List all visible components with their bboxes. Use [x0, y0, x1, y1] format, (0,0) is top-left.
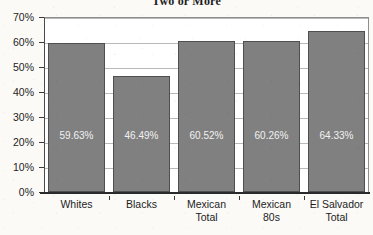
x-axis-baseline [40, 192, 370, 194]
bar-slot: 64.33% [304, 17, 369, 192]
x-tick-label-line: Total [304, 211, 369, 224]
y-tick-label: 70% [13, 11, 34, 23]
bar-value-label: 46.49% [114, 130, 169, 141]
x-tick-label: Blacks [109, 198, 174, 211]
bars-layer: 59.63%46.49%60.52%60.26%64.33% [44, 17, 369, 192]
x-tick-label-line: Total [174, 211, 239, 224]
bar-value-label: 60.52% [179, 130, 234, 141]
y-tick-label: 0% [19, 186, 34, 198]
x-tick-mark [239, 196, 240, 200]
y-tick-label: 20% [13, 136, 34, 148]
bar-slot: 60.52% [174, 17, 239, 192]
bar[interactable]: 46.49% [113, 76, 170, 192]
bar[interactable]: 59.63% [48, 43, 105, 192]
x-tick-label: Whites [44, 198, 109, 211]
x-tick-label: El SalvadorTotal [304, 198, 369, 223]
x-tick-mark [109, 196, 110, 200]
x-tick-mark [304, 196, 305, 200]
x-tick-label: MexicanTotal [174, 198, 239, 223]
x-tick-mark [174, 196, 175, 200]
bar-value-label: 59.63% [49, 130, 104, 141]
bar[interactable]: 60.26% [243, 41, 300, 192]
y-tick-label: 60% [13, 36, 34, 48]
bar-slot: 46.49% [109, 17, 174, 192]
y-tick-label: 30% [13, 111, 34, 123]
x-tick-label-line: Whites [44, 198, 109, 211]
bar-slot: 60.26% [239, 17, 304, 192]
bar-value-label: 64.33% [309, 130, 364, 141]
y-tick-label: 10% [13, 161, 34, 173]
x-tick-label-line: Mexican [174, 198, 239, 211]
chart-title: Two or More [0, 0, 373, 8]
y-tick-label: 50% [13, 61, 34, 73]
bar[interactable]: 60.52% [178, 41, 235, 192]
x-tick-label-line: Mexican [239, 198, 304, 211]
y-axis: 0%10%20%30%40%50%60%70% [0, 0, 41, 235]
x-tick-label: Mexican80s [239, 198, 304, 223]
y-tick-label: 40% [13, 86, 34, 98]
x-tick-label-line: Blacks [109, 198, 174, 211]
x-tick-label-line: 80s [239, 211, 304, 224]
bar[interactable]: 64.33% [308, 31, 365, 192]
x-tick-label-line: El Salvador [304, 198, 369, 211]
bar-value-label: 60.26% [244, 130, 299, 141]
x-axis: WhitesBlacksMexicanTotalMexican80sEl Sal… [44, 196, 369, 235]
bar-slot: 59.63% [44, 17, 109, 192]
bar-chart: Two or More 0%10%20%30%40%50%60%70% 59.6… [0, 0, 373, 235]
